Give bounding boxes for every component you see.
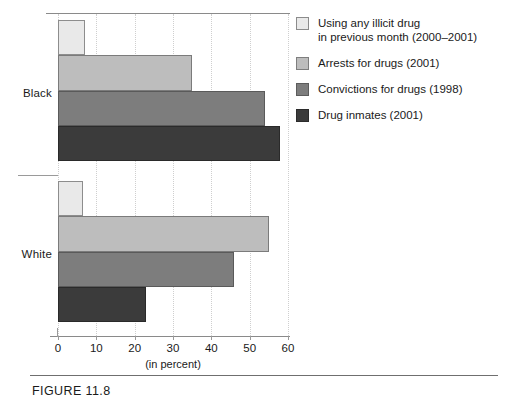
plot-area (58, 14, 288, 336)
x-tick-label: 50 (235, 342, 265, 354)
legend-label: Convictions for drugs (1998) (318, 82, 462, 96)
legend-label: Using any illicit drugin previous month … (318, 16, 477, 44)
bar (58, 252, 234, 287)
x-tick-label: 30 (158, 342, 188, 354)
x-axis-title: (in percent) (58, 358, 288, 370)
legend-item: Convictions for drugs (1998) (296, 82, 504, 96)
bar (58, 287, 146, 322)
x-tick-label: 60 (273, 342, 303, 354)
x-tick-label: 10 (81, 342, 111, 354)
category-label-black: Black (0, 87, 52, 99)
bar (58, 55, 192, 90)
legend-swatch-icon (296, 83, 309, 96)
legend-swatch-icon (296, 57, 309, 70)
bar (58, 91, 265, 126)
legend-item: Arrests for drugs (2001) (296, 56, 504, 70)
category-label-white: White (0, 248, 52, 260)
gridline (288, 14, 290, 336)
x-tick (173, 336, 174, 340)
x-axis-line (50, 336, 290, 337)
caption-divider (30, 375, 498, 376)
gridline (250, 14, 252, 336)
bar (58, 216, 269, 251)
bar (58, 20, 85, 55)
x-tick-label: 40 (196, 342, 226, 354)
legend-swatch-icon (296, 17, 309, 30)
legend-swatch-icon (296, 109, 309, 122)
x-tick (58, 336, 59, 340)
legend-label: Arrests for drugs (2001) (318, 56, 439, 70)
bar (58, 181, 83, 216)
figure-caption: FIGURE 11.8 (32, 384, 111, 398)
category-separator-tick (18, 175, 58, 176)
chart-legend: Using any illicit drugin previous month … (296, 16, 504, 134)
x-tick (135, 336, 136, 340)
bar (58, 126, 280, 161)
legend-label: Drug inmates (2001) (318, 108, 423, 122)
x-tick (211, 336, 212, 340)
x-tick-label: 0 (43, 342, 73, 354)
legend-item: Drug inmates (2001) (296, 108, 504, 122)
figure-container: BlackWhite 0102030405060 (in percent) Us… (0, 0, 508, 404)
x-tick (96, 336, 97, 340)
x-tick-label: 20 (120, 342, 150, 354)
gridline (211, 14, 213, 336)
x-tick (250, 336, 251, 340)
legend-item: Using any illicit drugin previous month … (296, 16, 504, 44)
x-tick (288, 336, 289, 340)
